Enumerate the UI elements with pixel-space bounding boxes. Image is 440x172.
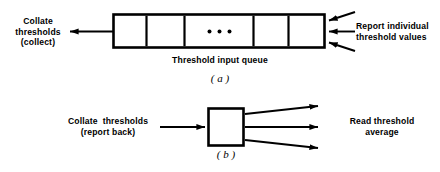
figure-container: Collate thresholds (collect) Report indi… (0, 0, 440, 172)
panel-a-caption: Threshold input queue (130, 55, 310, 66)
panel-b-left-label: Collate thresholds (report back) (56, 116, 160, 137)
panel-a-left-label: Collate thresholds (collect) (6, 16, 70, 48)
panel-b-label: ( b ) (196, 148, 256, 160)
arrow-report-threshold-bottom (329, 43, 355, 52)
arrow-report-threshold-top (329, 12, 355, 21)
panel-b-right-label: Read threshold average (336, 116, 428, 137)
collate-box (209, 109, 244, 146)
panel-a-label: ( a ) (190, 72, 250, 84)
panel-a-right-label: Report individual threshold values (356, 21, 440, 42)
panel-a-linework (70, 12, 355, 51)
arrow-read-threshold-top (245, 106, 318, 114)
panel-b-linework (160, 106, 318, 148)
arrow-read-threshold-bottom (245, 140, 318, 148)
